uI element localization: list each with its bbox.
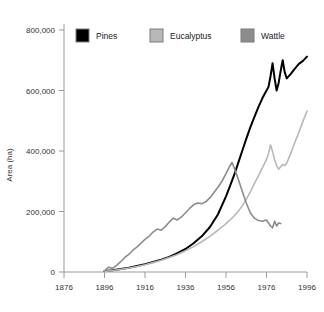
legend-label-eucalyptus: Eucalyptus <box>170 31 212 41</box>
y-tick-label: 600,000 <box>26 87 55 96</box>
series-line-eucalyptus <box>105 111 308 271</box>
x-tick-label: 1876 <box>55 283 73 292</box>
forestry-area-line-chart: PinesEucalyptusWattle 0200,000400,000600… <box>0 0 324 312</box>
legend-swatch-eucalyptus <box>150 29 163 42</box>
legend-swatch-wattle <box>241 29 254 42</box>
x-tick-label: 1956 <box>217 283 235 292</box>
y-tick-label: 200,000 <box>26 208 55 217</box>
y-tick-label: 400,000 <box>26 147 55 156</box>
chart-legend: PinesEucalyptusWattle <box>76 29 285 42</box>
series-line-wattle <box>105 163 281 271</box>
x-tick-label: 1896 <box>96 283 114 292</box>
y-axis-title: Area (ha) <box>5 148 14 182</box>
x-tick-label: 1916 <box>136 283 154 292</box>
chart-container: PinesEucalyptusWattle 0200,000400,000600… <box>0 0 324 312</box>
y-tick-label: 0 <box>51 268 56 277</box>
chart-series <box>105 57 308 272</box>
x-tick-label: 1996 <box>298 283 316 292</box>
legend-label-pines: Pines <box>96 31 117 41</box>
x-tick-label: 1976 <box>258 283 276 292</box>
y-axis: 0200,000400,000600,000800,000 <box>26 24 64 277</box>
legend-swatch-pines <box>76 29 89 42</box>
x-tick-label: 1936 <box>177 283 195 292</box>
legend-label-wattle: Wattle <box>261 31 285 41</box>
y-tick-label: 800,000 <box>26 26 55 35</box>
x-axis: 1876189619161936195619761996 <box>55 272 316 292</box>
